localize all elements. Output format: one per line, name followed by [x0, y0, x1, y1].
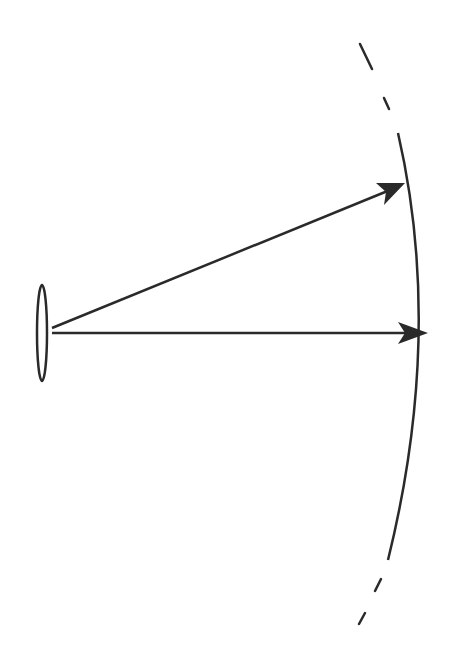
wavefront-arc-dashes-top [360, 44, 389, 109]
lens-icon [37, 285, 47, 381]
oblique-ray-arrow [52, 183, 405, 328]
optics-diagram [0, 0, 450, 669]
wavefront-arc-dashes-bottom [359, 579, 381, 624]
wavefront-arc [388, 133, 419, 560]
axial-ray-arrow [52, 322, 428, 344]
diagram-canvas: Lens at left emitting two rays (arrows) … [0, 0, 450, 669]
